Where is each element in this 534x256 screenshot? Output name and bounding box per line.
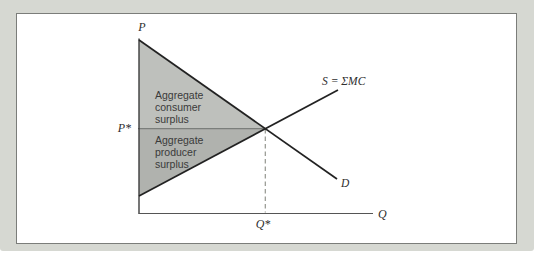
equilibrium-quantity-label: Q* [256, 217, 271, 231]
y-axis-label: P [137, 20, 146, 34]
figure-stage: P P* Q Q* S = ΣMC D Aggregate consumer s… [0, 0, 534, 256]
producer-surplus-line-3: surplus [155, 158, 189, 170]
producer-surplus-line-2: producer [155, 146, 197, 158]
consumer-surplus-line-2: consumer [155, 101, 202, 113]
equilibrium-price-label: P* [117, 121, 131, 135]
consumer-surplus-line-1: Aggregate [155, 89, 204, 101]
producer-surplus-line-1: Aggregate [155, 134, 204, 146]
demand-curve-label: D [340, 177, 350, 189]
x-axis-label: Q [378, 207, 387, 221]
supply-demand-diagram: P P* Q Q* S = ΣMC D Aggregate consumer s… [0, 0, 534, 256]
consumer-surplus-line-3: surplus [155, 113, 189, 125]
supply-curve-label: S = ΣMC [322, 75, 366, 87]
